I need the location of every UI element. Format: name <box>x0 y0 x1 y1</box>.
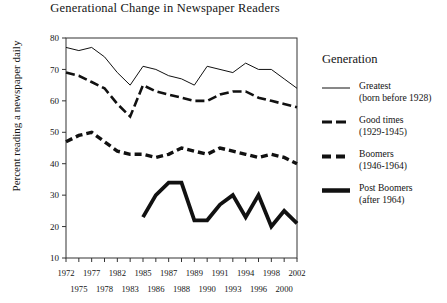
legend-swatch-boomers <box>322 153 352 160</box>
x-tick-label: 1989 <box>186 268 203 278</box>
x-tick-label: 1977 <box>83 268 101 278</box>
y-tick-label: 80 <box>50 33 60 43</box>
x-tick-label: 1987 <box>160 268 178 278</box>
chart-page: Generational Change in Newspaper Readers… <box>0 0 447 303</box>
legend-label-greatest: Greatest <box>359 80 431 92</box>
page-title: Generational Change in Newspaper Readers <box>0 1 330 16</box>
legend-title: Generation <box>322 52 447 67</box>
y-tick-label: 20 <box>50 222 60 232</box>
x-tick-label: 1998 <box>263 268 280 278</box>
legend-item-greatest[interactable]: Greatest (born before 1928) <box>322 80 447 103</box>
legend-label-group: Boomers (1946-1964) <box>359 148 407 171</box>
legend-sub-post-boomers: (after 1964) <box>359 194 413 206</box>
legend-label-group: Greatest (born before 1928) <box>359 80 431 103</box>
y-tick-label: 50 <box>50 127 60 137</box>
legend-label-boomers: Boomers <box>359 148 407 160</box>
legend-swatch-good-times <box>322 119 352 125</box>
x-tick-label: 2000 <box>276 284 293 294</box>
legend-swatch-post-boomers <box>322 187 352 194</box>
x-tick-label: 1988 <box>173 284 190 294</box>
x-tick-label: 1978 <box>96 284 113 294</box>
x-tick-label: 1985 <box>134 268 151 278</box>
legend-item-boomers[interactable]: Boomers (1946-1964) <box>322 148 447 171</box>
series-line-boomers <box>66 132 297 163</box>
legend-sub-greatest: (born before 1928) <box>359 92 431 104</box>
x-tick-label: 1996 <box>250 284 268 294</box>
y-tick-label: 10 <box>50 253 60 263</box>
legend-label-post-boomers: Post Boomers <box>359 182 413 194</box>
plot-area: Percent reading a newspaper daily 102030… <box>0 18 310 303</box>
x-tick-label: 1975 <box>70 284 87 294</box>
x-tick-label: 1986 <box>147 284 165 294</box>
y-axis-label: Percent reading a newspaper daily <box>10 16 22 216</box>
legend-label-good-times: Good times <box>359 114 407 126</box>
x-tick-label: 1990 <box>199 284 216 294</box>
x-tick-label: 1994 <box>237 268 255 278</box>
y-tick-label: 30 <box>50 190 60 200</box>
x-tick-label: 1983 <box>122 284 139 294</box>
legend-swatch-greatest <box>322 85 352 91</box>
x-tick-label: 1991 <box>211 268 228 278</box>
series-line-greatest <box>66 47 297 88</box>
legend-label-group: Post Boomers (after 1964) <box>359 182 413 205</box>
legend-item-post-boomers[interactable]: Post Boomers (after 1964) <box>322 182 447 205</box>
y-tick-label: 60 <box>50 96 60 106</box>
x-tick-label: 1982 <box>109 268 126 278</box>
legend: Generation Greatest (born before 1928) G… <box>322 52 447 216</box>
y-tick-label: 40 <box>50 159 60 169</box>
legend-label-group: Good times (1929-1945) <box>359 114 407 137</box>
y-tick-label: 70 <box>50 65 60 75</box>
x-tick-label: 2002 <box>288 268 305 278</box>
legend-sub-good-times: (1929-1945) <box>359 126 407 138</box>
x-tick-label: 1993 <box>224 284 241 294</box>
line-chart: 1020304050607080197219751977197819821983… <box>0 18 310 303</box>
legend-item-good-times[interactable]: Good times (1929-1945) <box>322 114 447 137</box>
legend-sub-boomers: (1946-1964) <box>359 160 407 172</box>
series-line-post-boomers <box>143 183 297 227</box>
x-tick-label: 1972 <box>57 268 74 278</box>
